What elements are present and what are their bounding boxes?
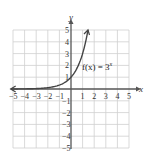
y-tick-label: 5 bbox=[65, 26, 69, 35]
exponential-graph: −5−4−3−2−112345−5−4−3−2−112345 y x f(x) … bbox=[0, 0, 146, 153]
x-tick-label: 5 bbox=[127, 92, 131, 101]
x-tick-label: −4 bbox=[21, 92, 30, 101]
y-tick-label: −1 bbox=[62, 97, 71, 106]
x-tick-label: 2 bbox=[92, 92, 96, 101]
function-label-exponent: x bbox=[109, 61, 113, 67]
function-curve bbox=[11, 30, 88, 89]
x-tick-label: −3 bbox=[32, 92, 41, 101]
y-tick-label: −3 bbox=[62, 120, 71, 129]
function-label-main: f(x) = 3 bbox=[82, 62, 110, 72]
y-tick-label: −2 bbox=[62, 109, 71, 118]
x-tick-label: 1 bbox=[81, 92, 85, 101]
y-tick-label: −4 bbox=[62, 132, 71, 141]
y-tick-label: −5 bbox=[62, 144, 71, 153]
x-tick-label: −2 bbox=[44, 92, 53, 101]
function-label: f(x) = 3x bbox=[82, 61, 113, 72]
y-tick-label: 4 bbox=[65, 38, 69, 47]
x-tick-label: 4 bbox=[115, 92, 119, 101]
axes bbox=[11, 19, 141, 149]
curve-arrows bbox=[11, 30, 90, 92]
y-tick-label: 2 bbox=[65, 61, 69, 70]
x-tick-label: −5 bbox=[9, 92, 18, 101]
x-tick-label: 3 bbox=[104, 92, 108, 101]
x-axis-label: x bbox=[138, 84, 143, 94]
y-axis-label: y bbox=[68, 12, 73, 22]
y-tick-label: 3 bbox=[65, 50, 69, 59]
